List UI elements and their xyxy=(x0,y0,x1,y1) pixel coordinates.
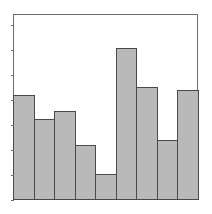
y-tick xyxy=(11,125,14,126)
y-tick xyxy=(11,175,14,176)
bar-6 xyxy=(116,48,137,200)
y-tick xyxy=(11,75,14,76)
bar-7 xyxy=(136,87,158,200)
bar-4 xyxy=(75,145,96,200)
bar-1 xyxy=(13,95,35,200)
y-tick xyxy=(11,150,14,151)
bar-2 xyxy=(34,119,55,200)
histogram-chart xyxy=(0,0,212,214)
bar-8 xyxy=(157,140,178,200)
y-tick xyxy=(11,25,14,26)
bar-9 xyxy=(177,90,199,200)
bar-3 xyxy=(54,111,76,200)
y-tick xyxy=(11,50,14,51)
y-tick xyxy=(11,200,14,201)
bar-5 xyxy=(95,174,117,200)
y-tick xyxy=(11,100,14,101)
